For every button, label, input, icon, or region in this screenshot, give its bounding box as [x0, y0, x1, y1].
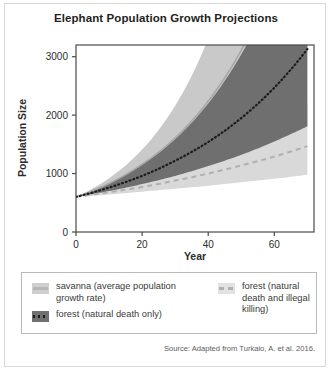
legend-swatch-line [33, 287, 48, 290]
y-axis-title: Population Size [16, 99, 28, 177]
legend-item-savanna[interactable]: savanna (average population growth rate) [32, 281, 200, 304]
x-tick-label: 0 [73, 239, 79, 250]
legend-item-forest-illegal-killing[interactable]: forest (natural death and illegal killin… [218, 281, 314, 316]
plot-area: 01000200030000204060 Year Population Siz… [5, 4, 327, 266]
legend-label-forest-illegal-killing: forest (natural death and illegal killin… [242, 281, 314, 316]
legend-label-forest-natural-death: forest (natural death only) [56, 309, 162, 321]
source-attribution: Source: Adapted from Turkalo, A. et al. … [164, 344, 315, 353]
y-tick-label: 1000 [46, 168, 69, 179]
legend-item-forest-natural-death[interactable]: forest (natural death only) [32, 309, 222, 322]
legend-swatch-line [219, 287, 234, 290]
figure-panel: Elephant Population Growth Projections 0… [4, 3, 326, 367]
chart-svg: 01000200030000204060 Year Population Siz… [5, 4, 327, 266]
legend-swatch-savanna-icon [32, 283, 49, 294]
legend-swatch-forest-illegal-killing-icon [218, 283, 235, 294]
legend-label-savanna: savanna (average population growth rate) [56, 281, 200, 304]
chart-legend: savanna (average population growth rate)… [21, 272, 317, 334]
y-tick-label: 3000 [46, 51, 69, 62]
x-tick-label: 40 [203, 239, 215, 250]
x-axis-title: Year [184, 250, 206, 262]
x-tick-label: 60 [269, 239, 281, 250]
y-tick-label: 2000 [46, 110, 69, 121]
legend-swatch-forest-natural-death-icon [32, 311, 49, 322]
y-tick-label: 0 [62, 227, 68, 238]
legend-swatch-line [33, 315, 48, 318]
x-tick-label: 20 [137, 239, 149, 250]
